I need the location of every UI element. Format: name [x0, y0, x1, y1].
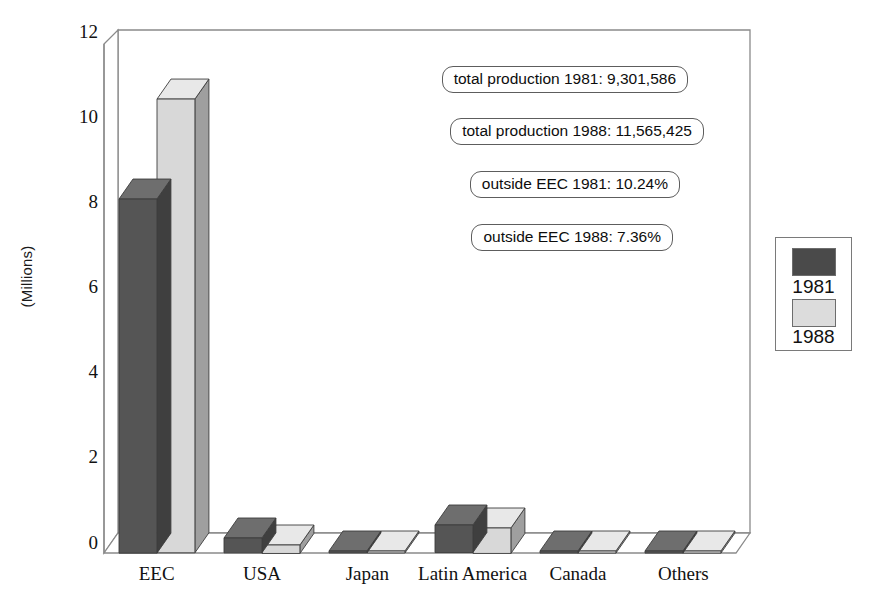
bar-others-1981 [645, 551, 683, 553]
chart-legend: 1981 1988 [775, 237, 852, 351]
legend-label-1981: 1981 [776, 276, 851, 298]
y-axis-tick-labels: 12 10 8 6 4 2 0 [40, 0, 98, 610]
annotation-total-production-1988: total production 1988: 11,565,425 [450, 118, 704, 145]
annotation-total-production-1981: total production 1981: 9,301,586 [442, 66, 688, 93]
bar-latin-america-1981 [435, 525, 473, 553]
y-tick-0: 0 [52, 533, 98, 552]
y-tick-2: 2 [52, 447, 98, 466]
y-tick-8: 8 [52, 192, 98, 211]
y-tick-12: 12 [52, 22, 98, 41]
bar-canada-1981 [540, 551, 578, 553]
legend-swatch-1988 [792, 299, 836, 327]
y-tick-10: 10 [52, 107, 98, 126]
bar-japan-1981 [329, 551, 367, 553]
chart-figure: 12 10 8 6 4 2 0 (Millions) EECUSAJapanLa… [0, 0, 888, 610]
x-label-others: Others [611, 563, 756, 585]
y-axis-title: (Millions) [18, 217, 35, 337]
legend-label-1988: 1988 [776, 326, 851, 348]
y-tick-4: 4 [52, 362, 98, 381]
annotation-outside-eec-1981: outside EEC 1981: 10.24% [470, 171, 680, 198]
annotation-outside-eec-1988: outside EEC 1988: 7.36% [471, 224, 673, 251]
bar-eec-1981 [119, 199, 157, 553]
bar-usa-1981 [224, 538, 262, 553]
y-tick-6: 6 [52, 277, 98, 296]
legend-swatch-1981 [792, 248, 836, 276]
